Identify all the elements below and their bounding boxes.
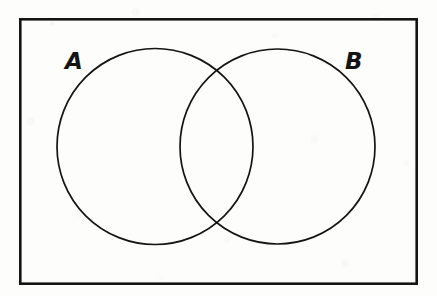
venn-diagram-figure: A B bbox=[0, 0, 437, 296]
set-a-label: A bbox=[65, 50, 83, 73]
venn-diagram-canvas bbox=[0, 0, 437, 296]
set-b-label: B bbox=[345, 50, 363, 73]
set-a-circle bbox=[57, 49, 253, 245]
set-b-circle bbox=[180, 49, 375, 244]
